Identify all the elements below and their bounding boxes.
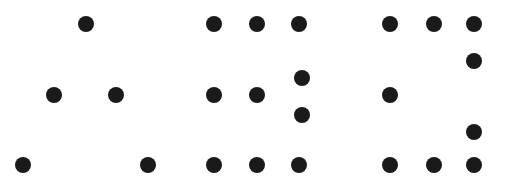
dot <box>249 87 265 103</box>
dot <box>206 16 222 32</box>
dot <box>426 157 442 173</box>
dot-figure-a <box>15 16 156 173</box>
dot <box>249 157 265 173</box>
dot <box>466 53 482 69</box>
dot <box>382 87 398 103</box>
dot <box>294 107 310 123</box>
dot <box>294 70 310 86</box>
dot <box>206 87 222 103</box>
dot <box>78 16 94 32</box>
dot <box>249 16 265 32</box>
dot <box>46 87 62 103</box>
dot <box>291 157 307 173</box>
dot <box>466 16 482 32</box>
dot <box>466 157 482 173</box>
dot <box>466 124 482 140</box>
dot <box>291 16 307 32</box>
dot <box>15 157 31 173</box>
dot-diagram <box>0 0 509 182</box>
dot <box>108 87 124 103</box>
dot <box>140 157 156 173</box>
dot <box>426 16 442 32</box>
dot-figure-b <box>206 16 310 173</box>
dot <box>382 157 398 173</box>
dot <box>382 16 398 32</box>
dot <box>206 157 222 173</box>
dot-figure-c <box>382 16 482 173</box>
